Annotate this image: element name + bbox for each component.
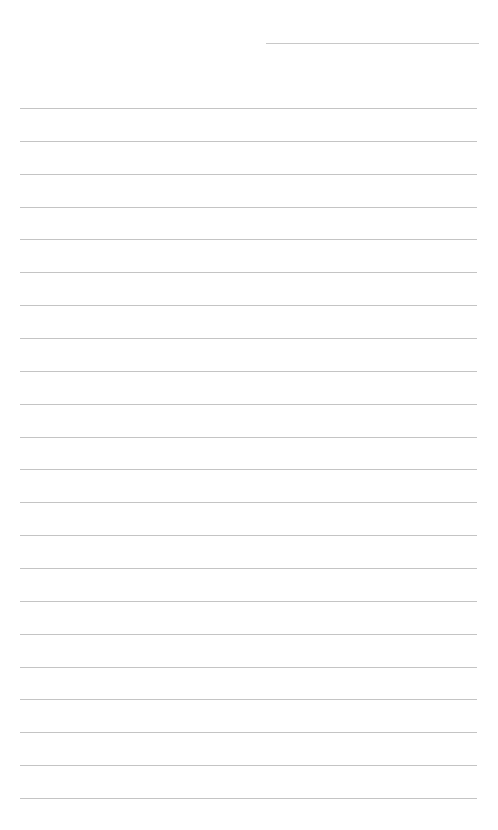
ruled-line — [20, 207, 477, 208]
ruled-line — [20, 174, 477, 175]
ruled-line — [20, 272, 477, 273]
ruled-line — [20, 765, 477, 766]
ruled-line — [20, 502, 477, 503]
ruled-line — [20, 732, 477, 733]
ruled-line — [20, 699, 477, 700]
ruled-line — [20, 371, 477, 372]
ruled-line — [20, 535, 477, 536]
header-line — [266, 43, 479, 44]
ruled-line — [20, 437, 477, 438]
ruled-line — [20, 469, 477, 470]
ruled-line — [20, 798, 477, 799]
ruled-line — [20, 239, 477, 240]
ruled-line — [20, 141, 477, 142]
ruled-line — [20, 568, 477, 569]
ruled-line — [20, 338, 477, 339]
ruled-line — [20, 404, 477, 405]
ruled-line — [20, 667, 477, 668]
ruled-line — [20, 601, 477, 602]
ruled-line — [20, 634, 477, 635]
ruled-line — [20, 108, 477, 109]
ruled-line — [20, 305, 477, 306]
